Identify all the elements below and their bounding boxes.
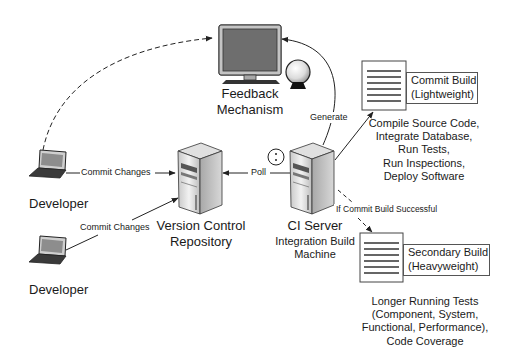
- commit-build-tasks: Compile Source Code, Integrate Database,…: [362, 117, 486, 183]
- commit-task: Deploy Software: [362, 170, 486, 183]
- ci-diagram: Feedback Mechanism Generate Commit Chang…: [0, 0, 508, 361]
- laptop-icon: [29, 236, 66, 264]
- commit-task: Run Inspections,: [362, 157, 486, 170]
- commit-build-document-icon: [362, 61, 406, 110]
- commit-changes-bottom-label: Commit Changes: [80, 222, 150, 233]
- feedback-mechanism-label: Feedback Mechanism: [216, 86, 284, 117]
- notify-developer-dashed-edge: [43, 38, 212, 150]
- orb-lamp-icon: [286, 60, 310, 89]
- commit-task: Run Tests,: [362, 143, 486, 156]
- commit-task: Compile Source Code,: [362, 117, 486, 130]
- secondary-build-title: Secondary Build: [408, 246, 485, 260]
- developer-bottom-label: Developer: [29, 282, 88, 298]
- repository-label: Version Control Repository: [154, 218, 248, 249]
- ci-server-icon: [290, 143, 334, 214]
- secondary-task: Functional, Performance),: [356, 321, 494, 334]
- commit-build-weight: (Lightweight): [411, 88, 473, 102]
- developer-top-label: Developer: [29, 196, 88, 212]
- commit-build-title-box: Commit Build (Lightweight): [406, 72, 478, 104]
- secondary-task: Longer Running Tests: [356, 295, 494, 308]
- feedback-label-line1: Feedback: [216, 86, 284, 102]
- generate-label: Generate: [309, 112, 349, 123]
- poll-label: Poll: [251, 167, 266, 178]
- secondary-build-tasks: Longer Running Tests (Component, System,…: [356, 295, 494, 348]
- ci-server-sub-line1: Integration Build: [268, 235, 362, 248]
- monitor-icon: [219, 25, 281, 84]
- clock-icon: [268, 149, 284, 165]
- secondary-build-document-icon: [360, 233, 403, 282]
- secondary-task: (Component, System,: [356, 308, 494, 321]
- repository-server-icon: [178, 143, 222, 214]
- commit-task: Integrate Database,: [362, 130, 486, 143]
- if-commit-successful-label: If Commit Build Successful: [334, 204, 439, 214]
- laptop-icon: [29, 150, 66, 178]
- repository-label-line2: Repository: [154, 234, 248, 250]
- repository-label-line1: Version Control: [154, 218, 248, 234]
- secondary-build-title-box: Secondary Build (Heavyweight): [403, 244, 490, 276]
- feedback-label-line2: Mechanism: [216, 102, 284, 118]
- secondary-task: Code Coverage: [356, 335, 494, 348]
- ci-server-label: CI Server: [282, 218, 348, 234]
- generate-edge: [282, 39, 335, 145]
- secondary-build-weight: (Heavyweight): [408, 260, 485, 274]
- commit-build-title: Commit Build: [411, 74, 473, 88]
- ci-server-sub-line2: Machine: [268, 248, 362, 261]
- commit-changes-top-label: Commit Changes: [81, 167, 151, 178]
- ci-server-sublabel: Integration Build Machine: [268, 235, 362, 261]
